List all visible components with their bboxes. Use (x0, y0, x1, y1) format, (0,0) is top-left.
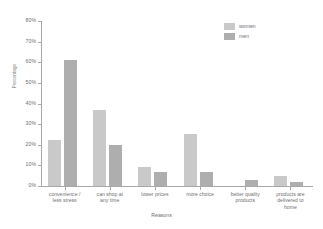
y-tick-label: 10% (12, 162, 36, 167)
y-tick-mark (38, 145, 41, 146)
y-tick-mark (38, 186, 41, 187)
y-tick-label: 0% (12, 183, 36, 188)
bar-group (223, 21, 268, 186)
bar-group (87, 21, 132, 186)
y-tick-mark (38, 165, 41, 166)
bar-chart: Percentage 0%10%20%30%40%50%60%70%80% co… (0, 0, 323, 229)
bar-group (42, 21, 87, 186)
bar-women[interactable] (184, 134, 197, 186)
y-tick-label: 20% (12, 142, 36, 147)
legend-swatch-icon (224, 33, 235, 40)
bar-women[interactable] (138, 167, 151, 186)
y-tick-label: 70% (12, 39, 36, 44)
y-tick-mark (38, 83, 41, 84)
bar-men[interactable] (154, 172, 167, 186)
legend-label: women (239, 24, 256, 29)
bar-women[interactable] (274, 176, 287, 186)
x-axis-line (41, 186, 313, 187)
legend-item-men[interactable]: men (224, 33, 256, 40)
bar-women[interactable] (93, 110, 106, 186)
bar-men[interactable] (64, 60, 77, 186)
bar-group (178, 21, 223, 186)
y-tick-mark (38, 124, 41, 125)
y-axis-title: Percentage (12, 46, 17, 106)
x-tick-mark (155, 187, 156, 190)
x-tick-mark (65, 187, 66, 190)
x-tick-mark (290, 187, 291, 190)
x-axis-title: Reasons (0, 212, 323, 218)
legend-item-women[interactable]: women (224, 23, 256, 30)
legend-swatch-icon (224, 23, 235, 30)
bar-men[interactable] (245, 180, 258, 186)
bar-men[interactable] (200, 172, 213, 186)
x-tick-mark (110, 187, 111, 190)
y-tick-label: 30% (12, 121, 36, 126)
x-tick-label: products aredelivered tohome (264, 191, 316, 210)
y-tick-label: 50% (12, 80, 36, 85)
x-tick-mark (200, 187, 201, 190)
chart-legend: womenmen (224, 23, 256, 43)
y-tick-mark (38, 104, 41, 105)
legend-label: men (239, 34, 249, 39)
bar-men[interactable] (109, 145, 122, 186)
y-tick-label: 80% (12, 18, 36, 23)
bar-men[interactable] (290, 182, 303, 186)
x-tick-mark (245, 187, 246, 190)
bar-group (132, 21, 177, 186)
bar-group (268, 21, 313, 186)
y-tick-mark (38, 42, 41, 43)
y-tick-label: 40% (12, 101, 36, 106)
bar-women[interactable] (48, 140, 61, 186)
y-tick-mark (38, 21, 41, 22)
y-tick-label: 60% (12, 59, 36, 64)
y-tick-mark (38, 62, 41, 63)
plot-area (42, 21, 313, 186)
